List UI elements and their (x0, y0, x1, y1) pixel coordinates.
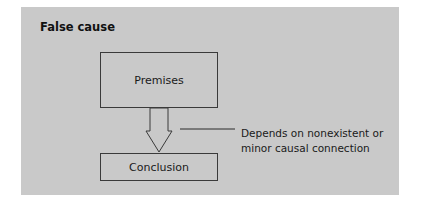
conclusion-label: Conclusion (129, 161, 189, 174)
annotation-line-2: minor causal connection (241, 141, 383, 156)
conclusion-box: Conclusion (100, 153, 218, 181)
causal-annotation: Depends on nonexistent or minor causal c… (241, 126, 383, 156)
annotation-line-1: Depends on nonexistent or (241, 126, 383, 141)
